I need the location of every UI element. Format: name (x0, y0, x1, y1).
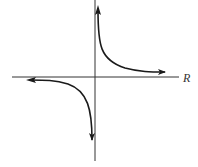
branch-lower-left (30, 80, 92, 140)
horizontal-axis-label: R (182, 71, 191, 85)
branch-upper-right (98, 10, 165, 72)
hyperbola-diagram: R (0, 0, 198, 167)
